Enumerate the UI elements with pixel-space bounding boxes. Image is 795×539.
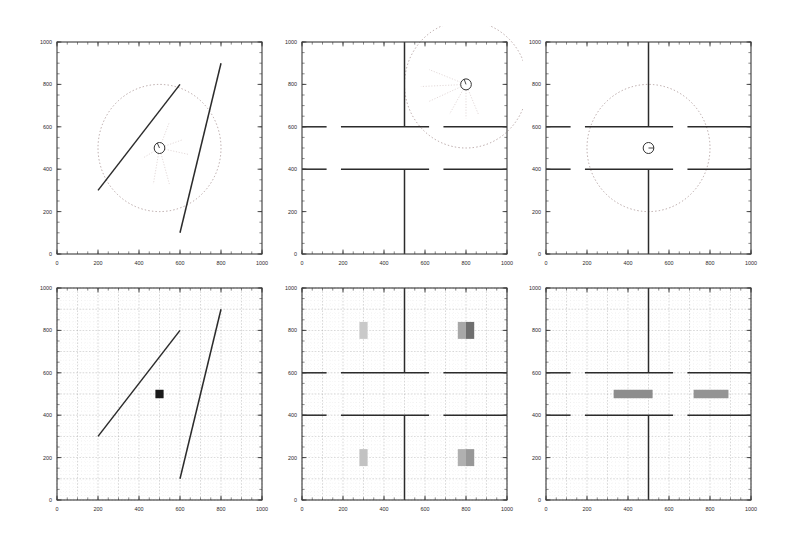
x-tick-label: 200: [94, 260, 103, 266]
y-tick-label: 800: [43, 327, 52, 333]
y-tick-label: 600: [288, 124, 297, 130]
x-tick-label: 600: [421, 506, 430, 512]
x-tick-label: 600: [665, 506, 674, 512]
y-tick-label: 1000: [529, 39, 541, 45]
y-tick-label: 200: [288, 209, 297, 215]
y-tick-label: 0: [538, 497, 541, 503]
y-tick-label: 200: [288, 455, 297, 461]
x-tick-label: 400: [624, 260, 633, 266]
occupancy-cell: [359, 322, 367, 339]
x-tick-label: 0: [545, 260, 548, 266]
x-tick-label: 400: [380, 506, 389, 512]
x-tick-label: 200: [94, 506, 103, 512]
y-tick-label: 600: [43, 124, 52, 130]
x-tick-label: 200: [583, 506, 592, 512]
y-tick-label: 1000: [529, 285, 541, 291]
y-tick-label: 400: [288, 166, 297, 172]
panel-3: 0200400600800100002004006008001000: [505, 26, 767, 284]
y-tick-label: 600: [43, 370, 52, 376]
y-tick-label: 1000: [285, 285, 297, 291]
x-tick-label: 600: [665, 260, 674, 266]
y-tick-label: 400: [43, 166, 52, 172]
occupancy-cell: [359, 449, 367, 466]
y-tick-label: 800: [532, 327, 541, 333]
x-tick-label: 400: [135, 506, 144, 512]
x-tick-label: 200: [339, 506, 348, 512]
x-tick-label: 0: [56, 260, 59, 266]
panel-2-plot: 0200400600800100002004006008001000: [261, 26, 523, 284]
panel-5-plot: 0200400600800100002004006008001000: [261, 272, 523, 530]
occupancy-cell: [458, 449, 466, 466]
y-tick-label: 400: [532, 412, 541, 418]
y-tick-label: 0: [294, 251, 297, 257]
panel-5: 0200400600800100002004006008001000: [261, 272, 523, 530]
y-tick-label: 800: [43, 81, 52, 87]
panel-6: 0200400600800100002004006008001000: [505, 272, 767, 530]
y-tick-label: 600: [532, 370, 541, 376]
x-tick-label: 800: [706, 260, 715, 266]
y-tick-label: 400: [532, 166, 541, 172]
panel-1-plot: 0200400600800100002004006008001000: [16, 26, 278, 284]
x-tick-label: 1000: [745, 260, 757, 266]
panel-2: 0200400600800100002004006008001000: [261, 26, 523, 284]
y-tick-label: 600: [532, 124, 541, 130]
x-tick-label: 0: [545, 506, 548, 512]
x-tick-label: 200: [583, 260, 592, 266]
x-tick-label: 800: [217, 506, 226, 512]
y-tick-label: 200: [532, 209, 541, 215]
x-tick-label: 600: [176, 506, 185, 512]
occupancy-cell: [466, 449, 474, 466]
panel-6-plot: 0200400600800100002004006008001000: [505, 272, 767, 530]
x-tick-label: 400: [135, 260, 144, 266]
y-tick-label: 1000: [285, 39, 297, 45]
occupancy-cell: [155, 390, 163, 398]
y-tick-label: 0: [49, 497, 52, 503]
x-tick-label: 800: [462, 260, 471, 266]
occupancy-cell: [614, 390, 653, 398]
occupancy-cell: [694, 390, 729, 398]
y-tick-label: 1000: [40, 285, 52, 291]
occupancy-cell: [466, 322, 474, 339]
x-tick-label: 800: [217, 260, 226, 266]
y-tick-label: 400: [288, 412, 297, 418]
panel-4: 0200400600800100002004006008001000: [16, 272, 278, 530]
y-tick-label: 0: [294, 497, 297, 503]
x-tick-label: 800: [462, 506, 471, 512]
x-tick-label: 0: [56, 506, 59, 512]
panel-1: 0200400600800100002004006008001000: [16, 26, 278, 284]
x-tick-label: 400: [624, 506, 633, 512]
panel-3-robot-marker: [643, 142, 654, 153]
x-tick-label: 1000: [745, 506, 757, 512]
x-tick-label: 0: [301, 260, 304, 266]
panel-2-robot-marker: [461, 79, 472, 90]
y-tick-label: 400: [43, 412, 52, 418]
x-tick-label: 600: [176, 260, 185, 266]
panel-4-plot: 0200400600800100002004006008001000: [16, 272, 278, 530]
x-tick-label: 400: [380, 260, 389, 266]
y-tick-label: 800: [532, 81, 541, 87]
y-tick-label: 0: [538, 251, 541, 257]
x-tick-label: 800: [706, 506, 715, 512]
figure-canvas: 0200400600800100002004006008001000020040…: [0, 0, 795, 539]
y-tick-label: 800: [288, 81, 297, 87]
y-tick-label: 0: [49, 251, 52, 257]
y-tick-label: 200: [43, 455, 52, 461]
y-tick-label: 800: [288, 327, 297, 333]
x-tick-label: 0: [301, 506, 304, 512]
y-tick-label: 200: [43, 209, 52, 215]
y-tick-label: 200: [532, 455, 541, 461]
y-tick-label: 600: [288, 370, 297, 376]
y-tick-label: 1000: [40, 39, 52, 45]
panel-3-plot: 0200400600800100002004006008001000: [505, 26, 767, 284]
x-tick-label: 600: [421, 260, 430, 266]
occupancy-cell: [458, 322, 466, 339]
panel-1-robot-marker: [154, 142, 165, 153]
x-tick-label: 200: [339, 260, 348, 266]
panel-4-occupied-cells: [155, 390, 163, 398]
